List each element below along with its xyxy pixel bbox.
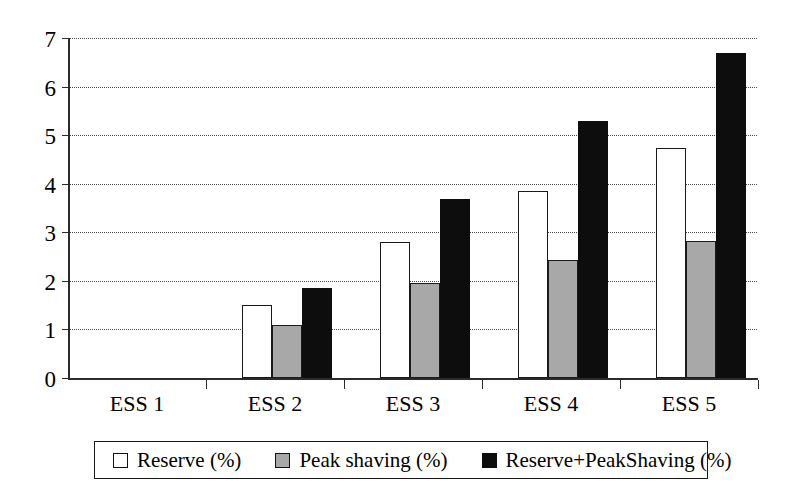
bar-reserve-2 xyxy=(242,305,272,378)
x-axis-tick xyxy=(758,380,759,389)
bar-reserve-peak-shaving-3 xyxy=(440,199,470,378)
x-axis-tick xyxy=(482,380,483,389)
bar-peak-shaving-2 xyxy=(272,325,302,378)
x-axis-label-3: ESS 3 xyxy=(344,391,482,417)
x-axis-label-1: ESS 1 xyxy=(68,391,206,417)
black-square-icon xyxy=(482,453,497,468)
bar-peak-shaving-5 xyxy=(686,241,716,378)
legend-item-reserve: Reserve (%) xyxy=(113,450,241,471)
white-square-icon xyxy=(113,453,128,468)
plot-area: 01234567 ESS 1ESS 2ESS 3ESS 4ESS 5 xyxy=(0,0,800,420)
legend-item-peak-shaving: Peak shaving (%) xyxy=(275,450,447,471)
x-axis-label-4: ESS 4 xyxy=(482,391,620,417)
x-axis-tick xyxy=(206,380,207,389)
legend-item-reserve-peak-shaving: Reserve+PeakShaving (%) xyxy=(482,450,732,471)
bar-reserve-3 xyxy=(380,242,410,378)
x-axis-tick xyxy=(344,380,345,389)
x-axis-label-2: ESS 2 xyxy=(206,391,344,417)
bar-chart: 01234567 ESS 1ESS 2ESS 3ESS 4ESS 5 Reser… xyxy=(0,0,800,495)
bar-reserve-5 xyxy=(656,148,686,378)
bar-reserve-peak-shaving-2 xyxy=(302,288,332,378)
gray-square-icon xyxy=(275,453,290,468)
chart-legend: Reserve (%) Peak shaving (%) Reserve+Pea… xyxy=(94,441,708,479)
legend-label-peak-shaving: Peak shaving (%) xyxy=(299,450,447,471)
legend-label-reserve: Reserve (%) xyxy=(137,450,241,471)
x-axis-line xyxy=(68,378,758,380)
bar-peak-shaving-3 xyxy=(410,283,440,378)
legend-label-reserve-peak-shaving: Reserve+PeakShaving (%) xyxy=(506,450,732,471)
bar-reserve-peak-shaving-5 xyxy=(716,53,746,378)
x-axis-label-5: ESS 5 xyxy=(620,391,758,417)
bar-series-layer xyxy=(68,38,758,378)
bar-peak-shaving-4 xyxy=(548,260,578,378)
bar-reserve-peak-shaving-4 xyxy=(578,121,608,378)
x-axis-tick xyxy=(620,380,621,389)
bar-reserve-4 xyxy=(518,191,548,378)
